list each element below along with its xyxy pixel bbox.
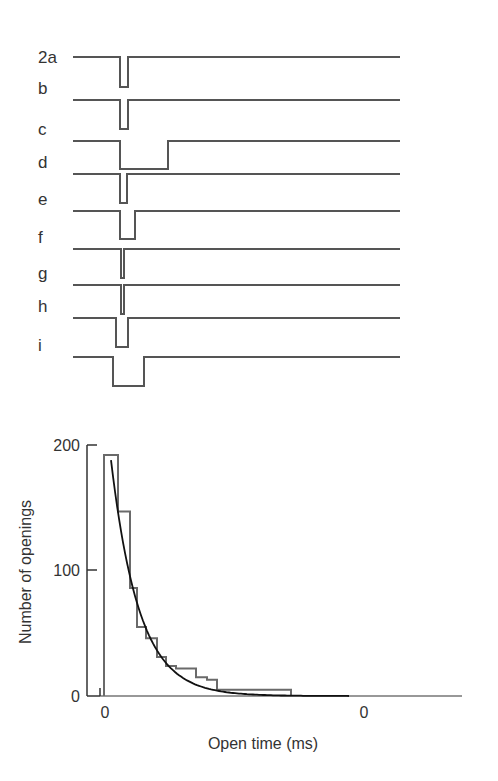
- trace-e: e: [38, 190, 400, 239]
- trace-f: f: [38, 228, 400, 278]
- x-tick-label-a: 0: [101, 704, 110, 721]
- histogram-bars: [104, 455, 291, 696]
- trace-label: e: [38, 190, 47, 209]
- y-tick-label-100: 100: [53, 562, 80, 579]
- y-tick-label-200: 200: [53, 437, 80, 454]
- trace-c: c: [38, 120, 400, 169]
- y-axis-title: Number of openings: [17, 500, 34, 644]
- trace-label: b: [38, 79, 47, 98]
- trace-label: d: [38, 153, 47, 172]
- trace-line: [73, 100, 400, 129]
- trace-h: h: [38, 297, 400, 347]
- trace-line: [73, 174, 400, 203]
- trace-g: g: [38, 264, 400, 314]
- single-channel-traces: 2abcdefghi: [38, 48, 400, 386]
- trace-line: [73, 57, 400, 87]
- exponential-fit-curve: [111, 460, 349, 696]
- trace-2a: 2a: [38, 48, 400, 87]
- trace-b: b: [38, 79, 400, 129]
- trace-label: c: [38, 120, 47, 139]
- trace-line: [73, 141, 400, 169]
- trace-label: g: [38, 264, 47, 283]
- trace-d: d: [38, 153, 400, 203]
- trace-label: 2a: [38, 48, 57, 67]
- x-tick-label-b: 0: [360, 704, 369, 721]
- trace-line: [73, 318, 400, 347]
- figure: 2abcdefghi 200 100 0 Number of openings …: [0, 0, 498, 781]
- x-axis-title: Open time (ms): [208, 735, 318, 752]
- open-time-histogram: 200 100 0 Number of openings 0 0 Open ti…: [17, 437, 462, 752]
- trace-line: [73, 211, 400, 239]
- trace-label: h: [38, 297, 47, 316]
- trace-line: [73, 285, 400, 314]
- y-tick-label-0: 0: [71, 688, 80, 705]
- trace-i: i: [38, 336, 400, 386]
- trace-line: [73, 249, 400, 278]
- trace-label: i: [38, 336, 42, 355]
- trace-line: [73, 357, 400, 386]
- trace-label: f: [38, 228, 43, 247]
